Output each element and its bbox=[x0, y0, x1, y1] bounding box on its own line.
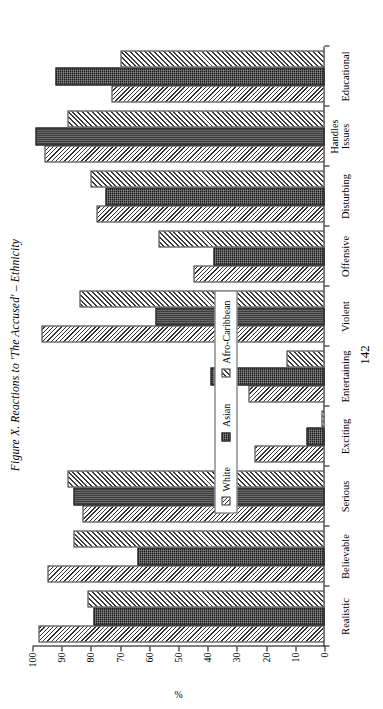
value-tick-label: 20 bbox=[261, 652, 271, 680]
chart-legend: WhiteAsianAfro-Caribbean bbox=[214, 290, 237, 513]
category-label: Disturbing bbox=[339, 166, 350, 226]
value-tick bbox=[149, 646, 150, 651]
value-tick-label: 70 bbox=[115, 652, 125, 680]
category-tick bbox=[324, 105, 329, 106]
category-tick bbox=[324, 525, 329, 526]
category-tick bbox=[324, 345, 329, 346]
bar bbox=[213, 247, 324, 264]
category-label: Violent bbox=[339, 286, 350, 346]
value-tick bbox=[178, 646, 179, 651]
bar bbox=[79, 290, 324, 307]
category-label: Offensive bbox=[339, 226, 350, 286]
bar bbox=[286, 350, 324, 367]
bar bbox=[38, 625, 324, 642]
value-tick bbox=[266, 646, 267, 651]
bar bbox=[87, 590, 324, 607]
bar bbox=[96, 205, 324, 222]
legend-swatch-icon bbox=[221, 368, 230, 377]
value-tick bbox=[295, 646, 296, 651]
category-tick bbox=[324, 45, 329, 46]
chart-plot-area: % 0102030405060708090100 RealisticBeliev… bbox=[32, 46, 324, 646]
legend-label: White bbox=[220, 467, 231, 491]
bar bbox=[73, 487, 324, 504]
bar bbox=[90, 170, 324, 187]
value-tick bbox=[207, 646, 208, 651]
value-tick bbox=[120, 646, 121, 651]
category-tick bbox=[324, 465, 329, 466]
bar bbox=[82, 505, 324, 522]
bar bbox=[111, 85, 324, 102]
bar bbox=[306, 427, 324, 444]
category-label: Entertaining bbox=[339, 346, 350, 406]
category-label: Realistic bbox=[339, 586, 350, 646]
legend-item: Afro-Caribbean bbox=[220, 300, 231, 377]
category-label: Believable bbox=[339, 526, 350, 586]
category-tick bbox=[324, 405, 329, 406]
bar bbox=[41, 325, 324, 342]
category-tick bbox=[324, 585, 329, 586]
value-tick-label: 90 bbox=[56, 652, 66, 680]
bar bbox=[67, 110, 324, 127]
value-tick-label: 10 bbox=[290, 652, 300, 680]
value-axis-title: % bbox=[174, 688, 182, 699]
value-tick-label: 50 bbox=[173, 652, 183, 680]
legend-item: Asian bbox=[220, 403, 231, 440]
category-tick bbox=[324, 225, 329, 226]
bar bbox=[47, 565, 324, 582]
bar bbox=[193, 265, 324, 282]
category-label: Exciting bbox=[339, 406, 350, 466]
scanned-page: Figure X. Reactions to 'The Accused' – E… bbox=[0, 0, 383, 709]
category-label: Serious bbox=[339, 466, 350, 526]
page-number: 142 bbox=[356, 0, 372, 709]
figure-title: Figure X. Reactions to 'The Accused' – E… bbox=[8, 0, 20, 709]
figure-stage: Figure X. Reactions to 'The Accused' – E… bbox=[0, 0, 383, 709]
bar bbox=[155, 307, 324, 324]
value-tick-label: 60 bbox=[144, 652, 154, 680]
value-tick bbox=[61, 646, 62, 651]
bar bbox=[120, 50, 324, 67]
value-tick bbox=[324, 646, 325, 651]
legend-label: Afro-Caribbean bbox=[220, 300, 231, 363]
legend-swatch-icon bbox=[221, 432, 230, 441]
bar bbox=[321, 410, 324, 427]
category-tick bbox=[324, 285, 329, 286]
legend-label: Asian bbox=[220, 403, 231, 426]
value-tick-label: 40 bbox=[202, 652, 212, 680]
category-label: Educational bbox=[339, 46, 350, 106]
value-tick bbox=[236, 646, 237, 651]
value-tick-label: 30 bbox=[231, 652, 241, 680]
value-tick-label: 80 bbox=[85, 652, 95, 680]
value-tick bbox=[32, 646, 33, 651]
bar bbox=[158, 230, 324, 247]
bar bbox=[55, 67, 324, 84]
bar bbox=[105, 187, 324, 204]
bar bbox=[254, 445, 324, 462]
value-tick-label: 0 bbox=[319, 652, 329, 680]
legend-item: White bbox=[220, 467, 231, 505]
category-label: Handles Issues bbox=[328, 106, 350, 166]
bar bbox=[73, 530, 324, 547]
value-tick-label: 100 bbox=[27, 652, 37, 680]
bar bbox=[93, 607, 324, 624]
legend-swatch-icon bbox=[221, 496, 230, 505]
bar bbox=[35, 127, 324, 144]
bar bbox=[67, 470, 324, 487]
bar bbox=[248, 385, 324, 402]
bar bbox=[44, 145, 324, 162]
bar bbox=[137, 547, 324, 564]
category-tick bbox=[324, 645, 329, 646]
value-tick bbox=[90, 646, 91, 651]
